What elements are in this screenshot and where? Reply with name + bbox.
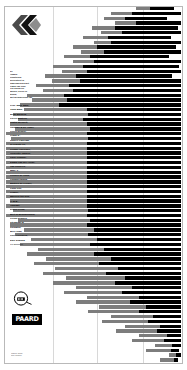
text-column: DeHaagseKunstkringpresenteert insamenwer… — [10, 12, 52, 247]
chart-bar-segment-black — [87, 70, 182, 73]
chart-bar-row — [6, 344, 181, 347]
logo-stack: PAARD — [12, 291, 42, 325]
chart-bar-segment-black — [136, 21, 182, 24]
chart-bar-segment-gray — [104, 17, 125, 20]
chart-bar-segment-black — [87, 122, 182, 125]
chart-bar-segment-black — [150, 7, 175, 10]
chart-bar-segment-gray — [94, 41, 112, 44]
chart-bar-row — [6, 286, 181, 289]
chart-bar-segment-gray — [73, 45, 98, 48]
chart-bar-segment-black — [87, 147, 182, 150]
chart-bar-segment-black — [153, 315, 181, 318]
chart-bar-segment-black — [130, 300, 181, 303]
chart-bar-segment-gray — [53, 281, 114, 284]
chart-bar-segment-black — [94, 228, 182, 231]
chart-bar-segment-black — [104, 50, 181, 53]
chart-bar-segment-black — [87, 190, 182, 193]
chart-bar-segment-black — [87, 185, 182, 188]
chart-bar-row — [6, 272, 181, 275]
chart-bar-segment-black — [111, 257, 181, 260]
credits-name-item: en anderen. — [10, 243, 52, 247]
chart-bar-segment-black — [118, 267, 181, 270]
chart-bar-segment-black — [87, 161, 182, 164]
chart-bar-segment-gray — [66, 276, 126, 279]
chart-bar-row — [6, 7, 181, 10]
chart-bar-segment-black — [64, 94, 181, 97]
chart-bar-segment-gray — [111, 12, 132, 15]
chart-bar-segment-black — [94, 252, 182, 255]
chart-bar-segment-black — [122, 291, 182, 294]
chart-bar-segment-gray — [160, 358, 174, 361]
chart-bar-segment-black — [139, 310, 181, 313]
chart-bar-segment-gray — [52, 79, 80, 82]
chart-bar-segment-black — [146, 305, 181, 308]
chart-bar-segment-black — [104, 248, 181, 251]
chart-bar-segment-black — [115, 281, 182, 284]
chart-bar-row — [6, 248, 181, 251]
chart-bar-segment-black — [76, 74, 172, 77]
chart-bar-segment-black — [88, 209, 181, 212]
chart-bar-segment-gray — [132, 339, 164, 342]
chart-bar-segment-gray — [38, 248, 105, 251]
chart-bar-segment-black — [160, 325, 181, 328]
chart-bar-segment-black — [88, 233, 181, 236]
chart-bar-segment-gray — [116, 329, 156, 332]
chart-bar-segment-black — [108, 36, 171, 39]
chart-bar-segment-gray — [62, 70, 87, 73]
chart-bar-segment-gray — [53, 65, 83, 68]
chart-bar-segment-black — [90, 243, 181, 246]
chart-bar-segment-black — [90, 55, 169, 58]
chart-bar-segment-gray — [125, 325, 160, 328]
chart-bar-segment-black — [73, 89, 182, 92]
chart-bar-segment-gray — [92, 26, 115, 29]
chart-bar-segment-black — [87, 108, 182, 111]
chart-bar-segment-gray — [27, 252, 94, 255]
paard-wordmark-text: PAARD — [15, 316, 38, 323]
intro-line: met medewerking van — [10, 96, 52, 99]
chart-bar-segment-black — [87, 132, 182, 135]
chart-bar-row — [6, 262, 181, 265]
chart-bar-segment-black — [90, 219, 181, 222]
chart-bar-segment-gray — [64, 291, 122, 294]
chart-bar-segment-black — [83, 65, 179, 68]
chart-bar-segment-black — [87, 166, 182, 169]
chart-bar-segment-gray — [169, 353, 176, 356]
chart-bar-segment-black — [97, 238, 181, 241]
chart-bar-segment-black — [132, 12, 181, 15]
chart-bar-row — [6, 334, 181, 337]
chart-bar-row — [6, 267, 181, 270]
chart-bar-row — [6, 252, 181, 255]
chart-bar-segment-black — [87, 175, 182, 178]
chart-bar-segment-black — [87, 195, 182, 198]
chart-bar-segment-gray — [76, 286, 132, 289]
chart-bar-segment-black — [80, 79, 182, 82]
chart-bar-segment-black — [157, 329, 182, 332]
colophon-line: druk: drukkerij — [11, 354, 57, 356]
chart-bar-segment-black — [111, 41, 181, 44]
colophon-credits: ontwerp: studiodruk: drukkerij — [11, 352, 57, 357]
circular-emblem-logo — [12, 291, 33, 306]
chart-bar-segment-gray — [99, 305, 146, 308]
chart-bar-row — [6, 358, 181, 361]
chart-bar-segment-black — [87, 142, 182, 145]
chart-bar-segment-black — [87, 171, 182, 174]
chart-bar-segment-gray — [64, 55, 90, 58]
chart-bar-segment-black — [69, 84, 181, 87]
chart-bar-segment-gray — [102, 320, 148, 323]
chart-bar-segment-black — [87, 204, 182, 207]
chart-bar-segment-black — [87, 180, 182, 183]
chart-bar-segment-black — [87, 151, 182, 154]
chart-bar-segment-black — [87, 223, 182, 226]
chart-bar-segment-black — [99, 262, 181, 265]
chart-bar-segment-gray — [146, 349, 171, 352]
chart-bar-segment-gray — [46, 257, 111, 260]
chart-bar-segment-black — [67, 98, 181, 101]
chart-bar-segment-gray — [55, 267, 118, 270]
chart-bar-segment-gray — [83, 36, 108, 39]
chart-bar-segment-gray — [136, 7, 150, 10]
chart-bar-segment-black — [83, 118, 181, 121]
chart-bar-segment-gray — [81, 50, 104, 53]
chart-bar-segment-black — [172, 344, 181, 347]
credits-name-list: Prof. Mark Bain,John Bain,Bilan Bargeld,… — [10, 104, 52, 247]
chart-bar-segment-black — [87, 156, 182, 159]
